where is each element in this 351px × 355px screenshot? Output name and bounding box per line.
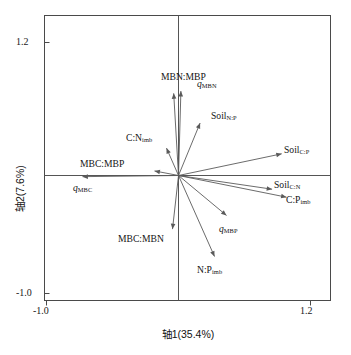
vector-arrowhead (196, 123, 200, 129)
x-axis-tick-min: -1.0 (33, 305, 49, 316)
vector-label-soil-c-p: SoilC:P (284, 145, 309, 156)
loading-vectors (83, 91, 287, 256)
vector-label-q-mbp: qMBP (219, 224, 238, 235)
y-axis-tick-min: -1.0 (16, 287, 32, 298)
vector-arrowhead (83, 174, 88, 179)
vector-arrow-n-p-imb (179, 176, 215, 257)
vector-label-soil-n-p: SoilN:P (211, 111, 237, 122)
vector-arrowhead (178, 91, 183, 96)
vector-label-q-mbc: qMBC (73, 183, 92, 194)
vector-arrow-mbn-mbp (174, 93, 179, 175)
vector-label-c-n-imb: C:Nimb (126, 133, 152, 144)
vector-arrowhead (171, 224, 176, 230)
vector-arrow-c-p-imb (179, 176, 287, 198)
vector-label-mbc-mbp: MBC:MBP (80, 159, 124, 169)
pca-biplot-figure: MBN:MBPqMBNSoilN:PC:NimbMBC:MBPqMBCSoilC… (0, 0, 351, 355)
y-axis-title: 轴2(7.6%) (12, 165, 27, 212)
vector-arrowhead (155, 170, 161, 175)
y-axis-tick-max: 1.2 (16, 36, 29, 47)
x-axis-tick-max: 1.2 (300, 305, 313, 316)
vector-arrow-soil-c-p (179, 154, 282, 176)
vector-arrowhead (266, 186, 272, 191)
vector-label-c-p-imb: C:Pimb (286, 195, 311, 206)
vector-arrow-mbc-mbn (173, 176, 179, 230)
vector-label-n-p-imb: N:Pimb (197, 265, 222, 276)
vector-arrow-soil-n-p (179, 123, 201, 175)
vector-arrowhead (172, 93, 177, 99)
vector-label-soil-c-n: SoilC:N (274, 180, 300, 191)
plot-canvas (0, 0, 351, 355)
vector-arrowhead (276, 153, 282, 158)
vector-label-q-mbn: qMBN (197, 79, 217, 90)
x-axis-title: 轴1(35.4%) (133, 326, 243, 341)
vector-label-mbc-mbn: MBC:MBN (118, 234, 164, 244)
